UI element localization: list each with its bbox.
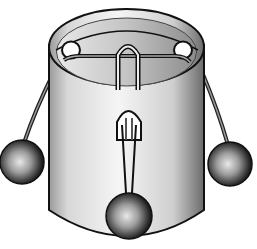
right-ball	[208, 142, 252, 186]
illustration	[0, 0, 257, 249]
front-slot	[117, 111, 141, 140]
left-ball	[0, 140, 44, 184]
front-ball	[106, 193, 152, 239]
